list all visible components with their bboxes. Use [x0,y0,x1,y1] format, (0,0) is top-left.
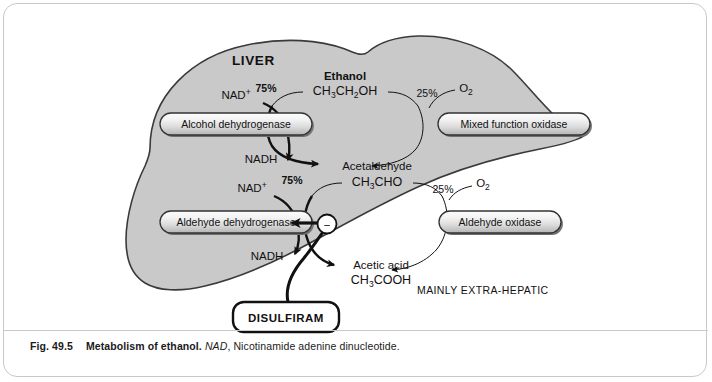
alcohol-dehydrogenase-label: Alcohol dehydrogenase [181,118,291,130]
caption-abbrev: NAD [205,340,227,352]
inhibition-symbol: − [318,215,337,234]
nad-plus-bottom-text: NAD [237,182,261,194]
acetaldehyde-name: Acetaldehyde [342,160,412,172]
inhibition-minus-sign: − [324,219,331,231]
o2-bottom-sub: 2 [485,182,490,192]
ethanol-metabolism-diagram: LIVER Ethanol CH3CH2OH 75% 25% NAD+ NADH [0,0,712,382]
acetaldehyde-ao-percent: 25% [432,183,453,195]
aldehyde-oxidase-label: Aldehyde oxidase [459,216,542,228]
acetic-acid-name: Acetic acid [353,259,409,271]
caption-title: Metabolism of ethanol. [86,340,202,352]
nad-plus-top-text: NAD [221,89,245,101]
acetaldehyde-aldh-percent: 75% [281,174,303,186]
acetaldehyde-formula: CH3CHO [352,175,403,191]
acetic-acid-formula-p0: CH [351,273,369,287]
mixed-function-oxidase-label: Mixed function oxidase [461,118,568,130]
extra-hepatic-label: MAINLY EXTRA-HEPATIC [417,284,549,296]
ethanol-formula-p4: OH [358,84,377,98]
enzyme-mixed-function-oxidase[interactable]: Mixed function oxidase [438,113,592,137]
ethanol-formula: CH3CH2OH [313,84,377,100]
caption-number: Fig. 49.5 [30,340,73,352]
acetaldehyde-formula-p2: CHO [375,175,403,189]
o2-top-sub: 2 [468,87,473,97]
enzyme-aldehyde-dehydrogenase[interactable]: Aldehyde dehydrogenase [160,211,314,235]
enzyme-aldehyde-oxidase[interactable]: Aldehyde oxidase [439,211,563,235]
ethanol-mfo-percent: 25% [416,87,437,99]
disulfiram-box[interactable]: DISULFIRAM [233,302,339,332]
caption-expansion: , Nicotinamide adenine dinucleotide. [227,340,399,352]
acetic-acid-formula: CH3COOH [351,273,411,289]
ethanol-name: Ethanol [324,70,366,82]
aldehyde-dehydrogenase-label: Aldehyde dehydrogenase [176,216,295,228]
o2-bottom-text: O [476,177,485,189]
ethanol-adh-percent: 75% [255,82,277,94]
figure-root: LIVER Ethanol CH3CH2OH 75% 25% NAD+ NADH [0,0,712,382]
ethanol-formula-p0: CH [313,84,331,98]
acetaldehyde-formula-p0: CH [352,175,370,189]
acetic-acid-formula-p2: COOH [374,273,412,287]
enzyme-alcohol-dehydrogenase[interactable]: Alcohol dehydrogenase [160,113,314,137]
o2-top-text: O [459,82,468,94]
ethanol-formula-p2: CH [336,84,354,98]
liver-label: LIVER [232,53,275,68]
disulfiram-label: DISULFIRAM [248,312,324,324]
nad-plus-bottom-sup: + [262,180,267,190]
nadh-top-label: NADH [245,153,278,165]
figure-caption: Fig. 49.5Metabolism of ethanol. NAD, Nic… [30,340,680,352]
nad-plus-top-sup: + [246,87,251,97]
o2-bottom-label: O2 [476,177,490,192]
nadh-bottom-label: NADH [251,250,284,262]
